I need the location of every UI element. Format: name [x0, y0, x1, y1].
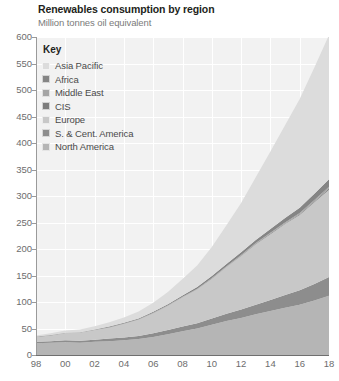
y-tick-mark	[32, 302, 36, 303]
legend-item-label: North America	[55, 141, 114, 152]
y-tick-label: 100	[2, 296, 32, 307]
y-tick-mark	[32, 329, 36, 330]
y-tick-label: 50	[2, 323, 32, 334]
legend-item-label: Middle East	[55, 87, 104, 98]
y-tick-label: 300	[2, 190, 32, 201]
x-tick-label: 16	[288, 358, 312, 369]
x-tick-label: 06	[141, 358, 165, 369]
x-axis-line	[36, 355, 329, 356]
legend-swatch-icon	[42, 116, 50, 124]
legend-swatch-icon	[42, 89, 50, 97]
legend-swatch-icon	[42, 143, 50, 151]
x-tick-label: 00	[53, 358, 77, 369]
legend-items: Asia PacificAfricaMiddle EastCISEuropeS.…	[42, 59, 133, 153]
y-tick-label: 450	[2, 111, 32, 122]
y-tick-label: 150	[2, 270, 32, 281]
y-tick-mark	[32, 37, 36, 38]
y-tick-mark	[32, 355, 36, 356]
legend-item-label: Europe	[55, 114, 85, 125]
x-tick-label: 08	[171, 358, 195, 369]
y-tick-mark	[32, 64, 36, 65]
legend-item[interactable]: North America	[42, 140, 133, 153]
legend: Key Asia PacificAfricaMiddle EastCISEuro…	[42, 44, 133, 154]
y-tick-label: 600	[2, 31, 32, 42]
legend-swatch-icon	[42, 62, 50, 70]
y-tick-label: 200	[2, 243, 32, 254]
chart-subtitle: Million tonnes oil equivalent	[38, 17, 151, 28]
legend-item[interactable]: Europe	[42, 113, 133, 126]
legend-title: Key	[43, 44, 133, 55]
x-tick-label: 02	[83, 358, 107, 369]
y-tick-mark	[32, 90, 36, 91]
legend-item[interactable]: Africa	[42, 73, 133, 86]
legend-item-label: Asia Pacific	[55, 60, 103, 71]
legend-swatch-icon	[42, 75, 50, 83]
legend-item[interactable]: Asia Pacific	[42, 59, 133, 72]
legend-item-label: S. & Cent. America	[55, 128, 133, 139]
y-tick-mark	[32, 276, 36, 277]
x-tick-label: 14	[258, 358, 282, 369]
y-tick-mark	[32, 223, 36, 224]
y-tick-label: 550	[2, 58, 32, 69]
y-tick-mark	[32, 143, 36, 144]
y-axis-line	[36, 37, 37, 355]
legend-item[interactable]: S. & Cent. America	[42, 127, 133, 140]
y-tick-mark	[32, 170, 36, 171]
legend-item-label: CIS	[55, 101, 71, 112]
x-tick-label: 12	[229, 358, 253, 369]
legend-item[interactable]: Middle East	[42, 86, 133, 99]
legend-item-label: Africa	[55, 74, 79, 85]
legend-swatch-icon	[42, 102, 50, 110]
y-tick-label: 400	[2, 137, 32, 148]
x-tick-label: 04	[112, 358, 136, 369]
y-tick-label: 250	[2, 217, 32, 228]
x-tick-label: 18	[317, 358, 339, 369]
x-tick-label: 10	[200, 358, 224, 369]
y-tick-label: 350	[2, 164, 32, 175]
chart-title: Renewables consumption by region	[38, 3, 215, 15]
y-axis-tick-labels: 600550500450400350300250200150100500	[0, 0, 32, 381]
x-tick-label: 98	[24, 358, 48, 369]
y-tick-mark	[32, 249, 36, 250]
legend-swatch-icon	[42, 129, 50, 137]
y-tick-mark	[32, 117, 36, 118]
legend-item[interactable]: CIS	[42, 100, 133, 113]
y-tick-label: 500	[2, 84, 32, 95]
y-tick-mark	[32, 196, 36, 197]
